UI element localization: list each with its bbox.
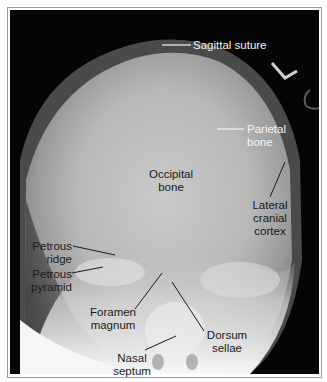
- label-sagittal-suture: Sagittal suture: [193, 39, 267, 52]
- label-text: cortex: [248, 225, 292, 238]
- label-parietal-bone: Parietal bone: [247, 123, 286, 149]
- label-text: Lateral: [248, 199, 292, 212]
- label-text: Dorsum: [204, 329, 250, 342]
- label-text: bone: [145, 181, 197, 194]
- label-text: Occipital: [145, 168, 197, 181]
- label-lateral-cranial-cortex: Lateral cranial cortex: [248, 199, 292, 238]
- label-text: Petrous: [24, 240, 72, 253]
- label-text: Foramen: [88, 306, 138, 319]
- label-dorsum-sellae: Dorsum sellae: [204, 329, 250, 355]
- label-text: pyramid: [22, 281, 72, 294]
- label-text: Sagittal suture: [193, 39, 267, 51]
- label-petrous-pyramid: Petrous pyramid: [22, 268, 72, 294]
- label-text: ridge: [24, 253, 72, 266]
- label-text: Nasal: [110, 352, 154, 365]
- label-text: septum: [110, 365, 154, 378]
- left-side-marker: [272, 63, 297, 78]
- label-text: bone: [247, 136, 286, 149]
- label-text: Parietal: [247, 123, 286, 136]
- label-petrous-ridge: Petrous ridge: [24, 240, 72, 266]
- label-text: cranial: [248, 212, 292, 225]
- label-text: sellae: [204, 342, 250, 355]
- label-occipital-bone: Occipital bone: [145, 168, 197, 194]
- label-nasal-septum: Nasal septum: [110, 352, 154, 378]
- label-text: magnum: [88, 319, 138, 332]
- label-text: Petrous: [22, 268, 72, 281]
- label-foramen-magnum: Foramen magnum: [88, 306, 138, 332]
